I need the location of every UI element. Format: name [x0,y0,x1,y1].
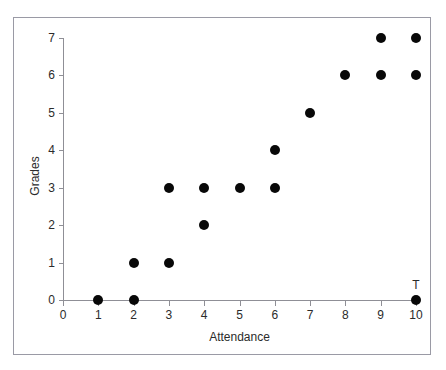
y-axis-title: Grades [28,136,42,216]
scatter-plot-figure: 01234567891001234567T Attendance Grades [0,0,446,370]
x-axis-title: Attendance [63,330,416,344]
figure-frame [13,17,431,355]
